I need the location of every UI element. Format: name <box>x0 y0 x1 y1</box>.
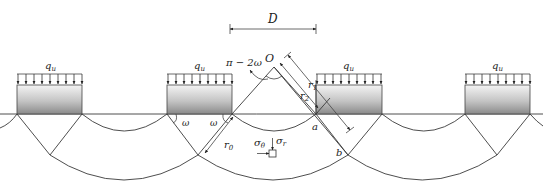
sigma-theta-label: σθ <box>254 137 266 150</box>
footing-block <box>316 85 382 114</box>
inner-arc-right-edge <box>530 114 543 126</box>
omega-right-label: ω <box>210 118 218 128</box>
outer-arc-2 <box>198 155 348 180</box>
fan-angle-leader <box>250 70 268 80</box>
fan-angle-label: π − 2ω <box>225 57 262 68</box>
inner-arc-1 <box>82 114 167 131</box>
footing-4 <box>465 74 530 114</box>
r0-label: r0 <box>224 139 234 152</box>
footing-block <box>167 85 232 114</box>
distributed-load-arrows-icon <box>18 74 82 84</box>
outer-arc-1 <box>50 155 198 180</box>
distributed-load-arrows-icon <box>168 74 232 84</box>
footing-block <box>465 85 530 114</box>
inner-arc-left-edge <box>0 114 17 128</box>
fan-angle-arc <box>266 76 282 79</box>
inner-arc-2 <box>232 114 316 131</box>
omega-arc-right <box>223 114 228 123</box>
point-b-label: b <box>336 147 342 158</box>
failure-mechanism-diagram: qu qu qu qu D O π − 2ω ω ω r1 r2 r0 a b … <box>0 0 543 191</box>
stress-element-square <box>269 150 276 157</box>
footing-3 <box>316 74 382 114</box>
wedge-footing-1 <box>17 114 82 155</box>
footing-block <box>17 85 82 114</box>
inner-arc-3 <box>382 114 465 131</box>
center-label: O <box>265 52 274 65</box>
omega-arc-left <box>173 114 177 123</box>
footing-3-load-label: qu <box>343 60 354 73</box>
footing-1 <box>17 74 82 114</box>
footing-2 <box>167 74 232 114</box>
omega-left-label: ω <box>182 118 190 128</box>
wedge-footing-2 <box>167 114 232 155</box>
wedge-footing-4 <box>465 114 530 155</box>
footing-2-load-label: qu <box>194 60 205 73</box>
spacing-label: D <box>267 12 278 26</box>
footing-4-load-label: qu <box>492 60 503 73</box>
footing-1-load-label: qu <box>45 60 56 73</box>
distributed-load-arrows-icon <box>466 74 530 84</box>
sigma-r-label: σr <box>276 135 287 148</box>
point-a-label: a <box>312 121 318 132</box>
wedge-footing-3 <box>316 114 382 155</box>
distributed-load-arrows-icon <box>317 74 381 84</box>
outer-arc-3 <box>348 155 497 180</box>
